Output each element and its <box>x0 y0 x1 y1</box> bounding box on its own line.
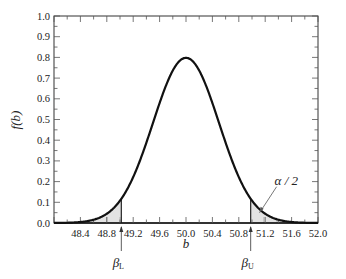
beta-u-label: βU <box>241 255 254 271</box>
y-axis-label: f(b) <box>8 111 23 130</box>
x-tick-label: 51.6 <box>282 228 300 239</box>
x-tick-label: 50.4 <box>203 228 222 239</box>
y-tick-label: 0.1 <box>37 197 50 208</box>
y-tick-label: 1.0 <box>37 11 50 22</box>
plot-frame <box>54 16 318 223</box>
y-tick-label: 0.0 <box>37 218 50 229</box>
y-tick-label: 0.4 <box>37 135 51 146</box>
y-tick-label: 0.7 <box>37 73 50 84</box>
x-tick-label: 49.2 <box>124 228 142 239</box>
x-tick-label: 48.8 <box>98 228 116 239</box>
chart: 48.448.849.249.650.050.450.851.251.652.0… <box>0 0 346 279</box>
y-tick-label: 0.9 <box>37 31 50 42</box>
axis-ticks: 48.448.849.249.650.050.450.851.251.652.0… <box>37 11 327 240</box>
y-tick-label: 0.3 <box>37 155 50 166</box>
beta-l-label: βL <box>112 255 124 271</box>
x-tick-label: 48.4 <box>71 228 90 239</box>
density-curve <box>54 58 318 223</box>
y-tick-label: 0.6 <box>37 93 50 104</box>
x-tick-label: 50.8 <box>230 228 248 239</box>
x-axis-label: b <box>183 236 190 251</box>
plot-border <box>54 16 318 223</box>
x-tick-label: 52.0 <box>309 228 327 239</box>
y-tick-label: 0.5 <box>37 114 50 125</box>
x-tick-label: 49.6 <box>150 228 168 239</box>
beta-l-arrowhead <box>119 226 123 232</box>
alpha-label: α / 2 <box>275 173 299 188</box>
beta-u-arrowhead <box>249 226 253 232</box>
x-tick-label: 51.2 <box>256 228 274 239</box>
y-tick-label: 0.2 <box>37 176 50 187</box>
y-tick-label: 0.8 <box>37 52 50 63</box>
